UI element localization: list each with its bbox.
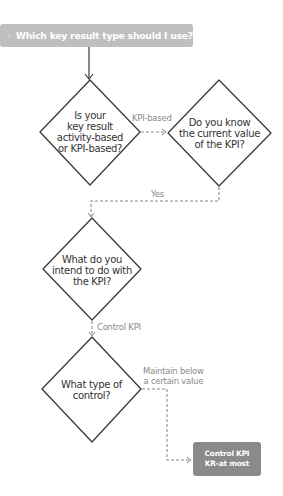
header-title: Which key result type should I use?: [16, 30, 193, 41]
q1-line: Is your: [40, 110, 140, 121]
result-line: Control KPI: [205, 449, 250, 459]
q1-line: key result: [40, 121, 140, 132]
q3-text: What do you intend to do with the KPI?: [43, 254, 141, 287]
q1-line: or KPI-based?: [40, 143, 140, 154]
flowchart-canvas: [0, 0, 283, 496]
header-title-box: Which key result type should I use?: [0, 24, 193, 47]
label-line: a certain value: [143, 376, 204, 386]
edge-label-control-kpi: Control KPI: [97, 322, 141, 332]
person-question-icon: [7, 27, 11, 45]
q2-line: Do you know: [168, 117, 271, 128]
q2-text: Do you know the current value of the KPI…: [168, 117, 271, 150]
result-line: KR-at most: [205, 459, 249, 469]
q1-line: activity-based: [40, 132, 140, 143]
q1-text: Is your key result activity-based or KPI…: [40, 110, 140, 154]
q4-line: What type of: [42, 379, 141, 390]
label-line: Maintain below: [143, 366, 204, 376]
q3-line: the KPI?: [43, 276, 141, 287]
q2-line: the current value: [168, 128, 271, 139]
edge-q4-to-result: [142, 389, 191, 460]
q3-line: What do you: [43, 254, 141, 265]
result-box: Control KPI KR-at most: [193, 442, 261, 476]
q4-text: What type of control?: [42, 379, 141, 401]
edge-label-maintain-below: Maintain below a certain value: [143, 366, 204, 386]
q2-line: of the KPI?: [168, 139, 271, 150]
edge-label-yes: Yes: [151, 189, 164, 199]
q3-line: intend to do with: [43, 265, 141, 276]
edge-label-kpi-based: KPI-based: [132, 113, 172, 123]
q4-line: control?: [42, 390, 141, 401]
